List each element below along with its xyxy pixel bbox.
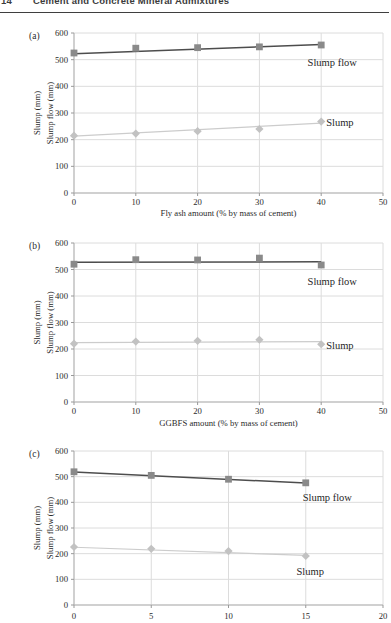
y-tick-label: 100 bbox=[55, 371, 69, 381]
x-tick-label: 0 bbox=[72, 406, 77, 416]
series-label: Slump flow bbox=[308, 57, 358, 68]
x-tick-label: 20 bbox=[193, 406, 202, 416]
y-tick-label: 0 bbox=[64, 397, 69, 407]
chart-svg: 010020030040050060001020304050Fly ash am… bbox=[0, 20, 391, 224]
x-tick-label: 10 bbox=[224, 611, 233, 621]
y-tick-label: 300 bbox=[55, 523, 69, 533]
gridlines bbox=[74, 243, 383, 402]
x-tick-label: 0 bbox=[72, 197, 77, 207]
y-axis-label: Slump flow (mm) bbox=[45, 291, 55, 353]
series-line-slump bbox=[74, 547, 306, 555]
y-tick-label: 400 bbox=[55, 497, 69, 507]
series-slump: Slump bbox=[70, 543, 324, 577]
diamond-marker bbox=[317, 117, 325, 125]
y-tick-label: 500 bbox=[55, 265, 69, 275]
square-marker bbox=[132, 256, 139, 263]
y-tick-label: 200 bbox=[55, 135, 69, 145]
x-tick-label: 20 bbox=[193, 197, 202, 207]
y-axis-label: Slump (mm) bbox=[32, 91, 42, 135]
square-marker bbox=[256, 43, 263, 50]
y-tick-label: 0 bbox=[64, 188, 69, 198]
diamond-marker bbox=[255, 336, 263, 344]
square-marker bbox=[71, 261, 78, 268]
y-axis-label: Slump (mm) bbox=[32, 300, 42, 344]
y-tick-label: 300 bbox=[55, 108, 69, 118]
square-marker bbox=[148, 472, 155, 479]
square-marker bbox=[132, 45, 139, 52]
square-marker bbox=[256, 255, 263, 262]
y-tick-label: 600 bbox=[55, 238, 69, 248]
panel-label: (c) bbox=[29, 449, 40, 460]
running-title: Cement and Concrete Mineral Admixtures bbox=[33, 0, 229, 6]
series-slump-flow: Slump flow bbox=[71, 468, 353, 502]
square-marker bbox=[318, 42, 325, 49]
square-marker bbox=[302, 479, 309, 486]
series-label: Slump flow bbox=[308, 276, 358, 287]
diamond-marker bbox=[70, 340, 78, 348]
square-marker bbox=[225, 476, 232, 483]
book-page: 14Cement and Concrete Mineral Admixtures… bbox=[0, 0, 391, 623]
y-tick-label: 300 bbox=[55, 318, 69, 328]
running-header: 14Cement and Concrete Mineral Admixtures bbox=[1, 0, 229, 6]
series-line-slump-flow bbox=[74, 472, 306, 483]
x-tick-label: 10 bbox=[131, 406, 140, 416]
page-header: 14Cement and Concrete Mineral Admixtures bbox=[0, 0, 389, 13]
square-marker bbox=[71, 50, 78, 57]
series-slump-flow: Slump flow bbox=[71, 42, 358, 68]
x-tick-label: 30 bbox=[255, 197, 264, 207]
y-axis-label: Slump flow (mm) bbox=[45, 497, 55, 559]
series-slump: Slump bbox=[70, 117, 354, 140]
square-marker bbox=[194, 257, 201, 264]
square-marker bbox=[71, 468, 78, 475]
panel-label: (b) bbox=[29, 241, 40, 252]
series-slump-flow: Slump flow bbox=[71, 255, 358, 287]
x-tick-label: 40 bbox=[317, 406, 326, 416]
x-axis-label: GGBFS amount (% by mass of cement) bbox=[159, 418, 298, 428]
diamond-marker bbox=[194, 337, 202, 345]
chart-c-silica: 010020030040050060005101520Slump (mm)Slu… bbox=[0, 436, 391, 623]
x-tick-label: 5 bbox=[149, 611, 153, 621]
y-tick-label: 0 bbox=[64, 600, 69, 610]
y-tick-label: 100 bbox=[55, 574, 69, 584]
series-label: Slump bbox=[296, 566, 323, 577]
y-tick-label: 500 bbox=[55, 55, 69, 65]
x-tick-label: 15 bbox=[301, 611, 310, 621]
x-tick-label: 10 bbox=[131, 197, 140, 207]
series-label: Slump bbox=[326, 340, 353, 351]
diamond-marker bbox=[302, 552, 310, 560]
x-tick-label: 30 bbox=[255, 406, 264, 416]
diamond-marker bbox=[70, 543, 78, 551]
y-tick-label: 500 bbox=[55, 472, 69, 482]
y-axis-label: Slump flow (mm) bbox=[45, 82, 55, 144]
x-axis-label: Fly ash amount (% by mass of cement) bbox=[161, 208, 297, 218]
chart-svg: 010020030040050060001020304050GGBFS amou… bbox=[0, 230, 391, 430]
axes bbox=[71, 243, 383, 405]
y-tick-label: 600 bbox=[55, 446, 69, 456]
series-label: Slump bbox=[326, 117, 353, 128]
diamond-marker bbox=[132, 129, 140, 137]
x-tick-label: 20 bbox=[379, 611, 388, 621]
series-label: Slump flow bbox=[303, 492, 353, 503]
x-tick-label: 40 bbox=[317, 197, 326, 207]
y-tick-label: 600 bbox=[55, 28, 69, 38]
square-marker bbox=[318, 262, 325, 269]
series-slump: Slump bbox=[70, 336, 354, 351]
y-axis-label: Slump (mm) bbox=[32, 506, 42, 550]
page-number: 14 bbox=[1, 0, 12, 6]
y-tick-label: 400 bbox=[55, 291, 69, 301]
y-tick-label: 200 bbox=[55, 549, 69, 559]
y-tick-label: 100 bbox=[55, 161, 69, 171]
square-marker bbox=[194, 44, 201, 51]
y-tick-label: 400 bbox=[55, 81, 69, 91]
x-tick-label: 0 bbox=[72, 611, 77, 621]
chart-b-ggbfs: 010020030040050060001020304050GGBFS amou… bbox=[0, 230, 391, 430]
diamond-marker bbox=[70, 132, 78, 140]
x-tick-label: 50 bbox=[379, 197, 388, 207]
diamond-marker bbox=[147, 545, 155, 553]
y-tick-label: 200 bbox=[55, 344, 69, 354]
panel-label: (a) bbox=[29, 31, 40, 42]
chart-a-fly-ash: 010020030040050060001020304050Fly ash am… bbox=[0, 20, 391, 224]
diamond-marker bbox=[132, 337, 140, 345]
chart-svg: 010020030040050060005101520Slump (mm)Slu… bbox=[0, 436, 391, 623]
x-tick-label: 50 bbox=[379, 406, 388, 416]
